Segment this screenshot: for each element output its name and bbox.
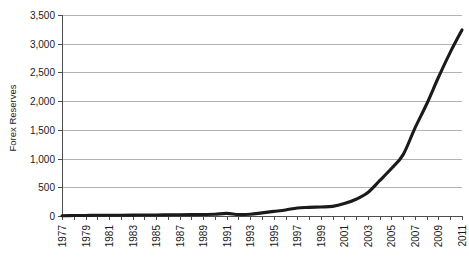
x-tick-label: 1977	[57, 225, 68, 248]
x-tick-label: 2011	[457, 225, 468, 247]
x-tick-label: 1989	[198, 225, 209, 248]
x-tick-label: 2001	[339, 225, 350, 248]
x-tick-label: 1999	[316, 225, 327, 248]
y-tick-label: 2,500	[30, 67, 55, 78]
x-tick-label: 1983	[128, 225, 139, 248]
x-tick-label: 1993	[245, 225, 256, 248]
y-tick-label: 500	[38, 182, 55, 193]
y-tick-label: 0	[49, 211, 55, 222]
x-tick-label: 1985	[151, 225, 162, 248]
x-tick-label: 2005	[386, 225, 397, 248]
x-tick-label: 1995	[269, 225, 280, 248]
x-tick-label: 1987	[175, 225, 186, 248]
x-tick-label: 2009	[433, 225, 444, 248]
forex-reserves-line-chart: 05001,0001,5002,0002,5003,0003,500 19771…	[0, 0, 469, 259]
x-tick-label: 2003	[363, 225, 374, 248]
x-tick-label: 1979	[81, 225, 92, 248]
y-tick-label: 1,000	[30, 154, 55, 165]
x-tick-label: 1981	[104, 225, 115, 248]
x-tick-label: 1991	[222, 225, 233, 248]
y-tick-label: 3,000	[30, 39, 55, 50]
x-tick-label: 1997	[292, 225, 303, 248]
chart-background	[0, 0, 469, 259]
x-tick-label: 2007	[410, 225, 421, 248]
y-tick-label: 3,500	[30, 10, 55, 21]
y-axis-title: Forex Reserves	[7, 84, 18, 151]
y-tick-label: 1,500	[30, 125, 55, 136]
y-tick-label: 2,000	[30, 96, 55, 107]
chart-figure: 05001,0001,5002,0002,5003,0003,500 19771…	[0, 0, 469, 259]
